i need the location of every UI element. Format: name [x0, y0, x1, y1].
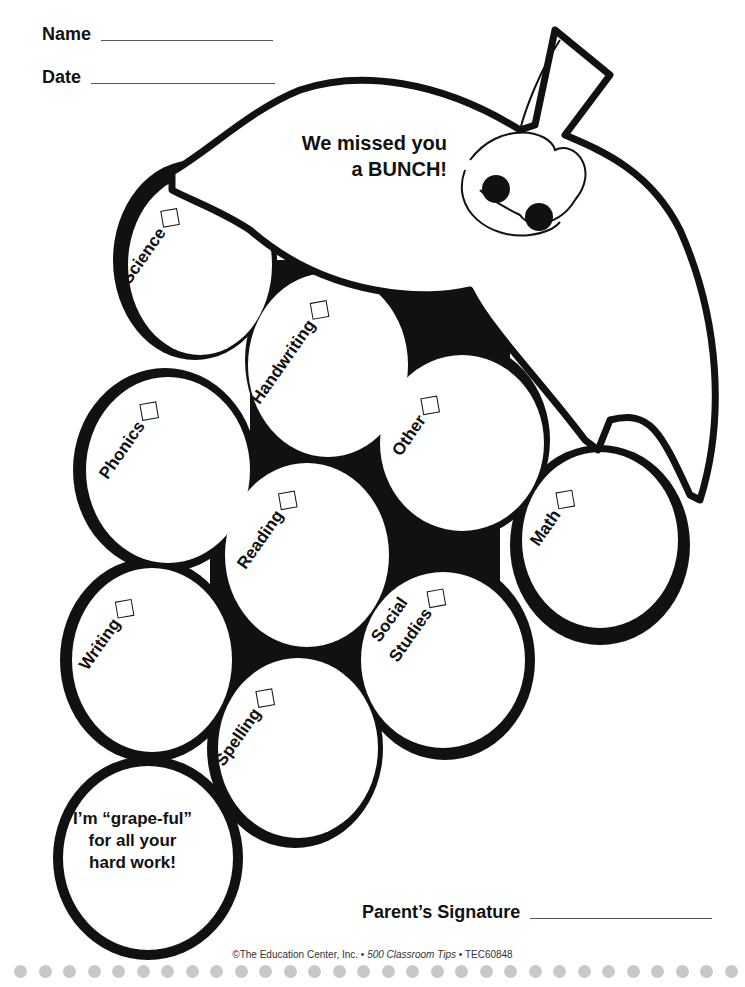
- dot-icon: [651, 965, 664, 978]
- dot-icon: [112, 965, 125, 978]
- dot-icon: [431, 965, 444, 978]
- signature-label: Parent’s Signature: [362, 902, 520, 923]
- decorative-dot-row: [14, 965, 738, 978]
- message-line-3: hard work!: [65, 852, 200, 874]
- checkbox-spelling[interactable]: [255, 688, 275, 708]
- dot-icon: [235, 965, 248, 978]
- dot-icon: [455, 965, 468, 978]
- dot-icon: [210, 965, 223, 978]
- dot-icon: [725, 965, 738, 978]
- right-eye-icon: [525, 203, 553, 231]
- copyright-text: ©The Education Center, Inc. •: [232, 949, 367, 960]
- book-title: 500 Classroom Tips: [367, 949, 456, 960]
- checkbox-writing[interactable]: [115, 599, 135, 619]
- dot-icon: [357, 965, 370, 978]
- dot-icon: [137, 965, 150, 978]
- copyright-footer: ©The Education Center, Inc. • 500 Classr…: [0, 949, 745, 960]
- dot-icon: [529, 965, 542, 978]
- dot-icon: [39, 965, 52, 978]
- checkbox-phonics[interactable]: [139, 401, 159, 421]
- checkbox-math[interactable]: [555, 490, 575, 510]
- dot-icon: [504, 965, 517, 978]
- headline-line-1: We missed you: [262, 130, 447, 156]
- dot-icon: [63, 965, 76, 978]
- left-eye-icon: [482, 175, 510, 203]
- dot-icon: [186, 965, 199, 978]
- dot-icon: [480, 965, 493, 978]
- checkbox-handwriting[interactable]: [310, 300, 330, 320]
- dot-icon: [700, 965, 713, 978]
- message-line-1: I’m “grape-ful”: [65, 808, 200, 830]
- dot-icon: [602, 965, 615, 978]
- dot-icon: [406, 965, 419, 978]
- grapeful-message: I’m “grape-ful” for all your hard work!: [65, 808, 200, 874]
- grape-spelling: [218, 658, 378, 838]
- checkbox-social-studies[interactable]: [427, 588, 447, 608]
- parent-signature-field[interactable]: Parent’s Signature: [362, 902, 712, 923]
- dot-icon: [161, 965, 174, 978]
- headline-line-2: a BUNCH!: [262, 156, 447, 182]
- dot-icon: [308, 965, 321, 978]
- message-line-2: for all your: [65, 830, 200, 852]
- dot-icon: [627, 965, 640, 978]
- checkbox-science[interactable]: [160, 208, 180, 228]
- product-code: • TEC60848: [456, 949, 513, 960]
- dot-icon: [553, 965, 566, 978]
- dot-icon: [382, 965, 395, 978]
- headline: We missed you a BUNCH!: [262, 130, 447, 182]
- dot-icon: [259, 965, 272, 978]
- checkbox-reading[interactable]: [278, 490, 298, 510]
- dot-icon: [333, 965, 346, 978]
- dot-icon: [284, 965, 297, 978]
- dot-icon: [676, 965, 689, 978]
- dot-icon: [88, 965, 101, 978]
- dot-icon: [578, 965, 591, 978]
- checkbox-other[interactable]: [421, 395, 441, 415]
- dot-icon: [14, 965, 27, 978]
- signature-line[interactable]: [530, 917, 712, 919]
